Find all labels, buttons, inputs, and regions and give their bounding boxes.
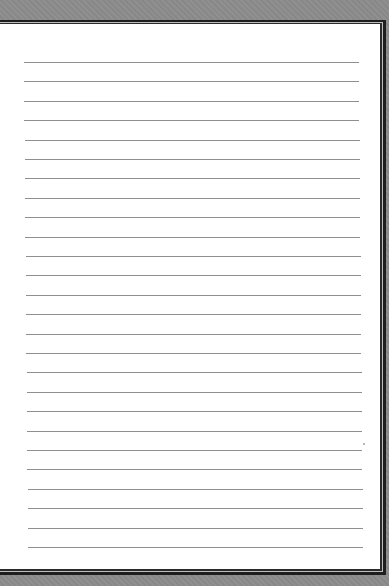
ruled-line [26,256,361,257]
ruled-line [25,159,360,160]
ruled-line [27,372,362,373]
ruled-line [26,314,361,315]
ruled-line [24,81,359,82]
paper-speck [363,443,365,445]
ruled-line [24,62,359,63]
ruled-line [27,469,362,470]
ruled-line [27,450,362,451]
ruled-line [28,528,363,529]
ruled-line [25,217,360,218]
ruled-line [26,334,361,335]
ruled-line [27,411,362,412]
ruled-line [26,275,361,276]
ruled-line [27,431,362,432]
ruled-line [28,489,363,490]
ruled-line [25,178,360,179]
ruled-line [24,120,359,121]
ruled-line [26,353,361,354]
ruled-line [28,508,363,509]
ruled-lines [0,0,389,586]
ruled-line [25,140,360,141]
ruled-line [26,295,361,296]
ruled-line [25,198,360,199]
ruled-line [25,237,360,238]
ruled-line [27,392,362,393]
ruled-line [24,101,359,102]
ruled-line [28,547,363,548]
